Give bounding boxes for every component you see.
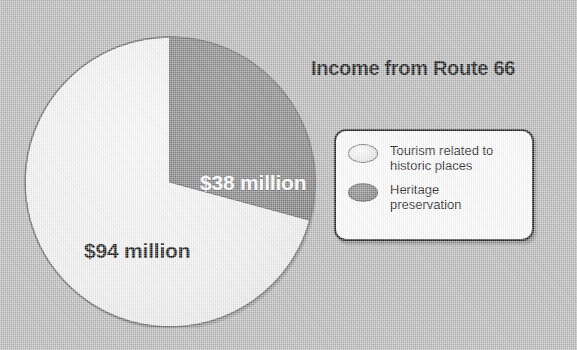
legend-label-heritage-line1: Heritage [390, 182, 439, 197]
chart-legend: Tourism related to historic places Herit… [334, 129, 534, 241]
legend-item-tourism[interactable]: Tourism related to historic places [348, 143, 522, 173]
legend-item-heritage[interactable]: Heritage preservation [348, 182, 522, 212]
legend-label-heritage-line2: preservation [390, 197, 462, 212]
legend-label-heritage: Heritage preservation [390, 182, 462, 212]
legend-label-tourism: Tourism related to historic places [390, 143, 493, 173]
legend-label-tourism-line2: historic places [390, 158, 472, 173]
slice-value-label-heritage: $38 million [200, 171, 306, 195]
legend-label-tourism-line1: Tourism related to [390, 143, 493, 158]
pie-chart: $38 million $94 million [24, 36, 316, 328]
legend-swatch-tourism-icon [348, 144, 378, 163]
slice-value-label-tourism: $94 million [84, 239, 190, 263]
chart-title: Income from Route 66 [311, 57, 515, 80]
chart-canvas: $38 million $94 million Income from Rout… [0, 0, 577, 350]
legend-swatch-heritage-icon [348, 183, 378, 202]
